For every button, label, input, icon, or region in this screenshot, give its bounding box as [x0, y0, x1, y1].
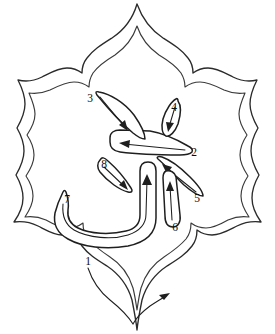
stroke-4-group: 4 [162, 99, 180, 137]
stroke-3-label: 3 [87, 92, 93, 104]
frame-group [14, 4, 261, 330]
stroke-8-label: 8 [101, 158, 107, 170]
stroke-6-label: 6 [172, 221, 178, 233]
stroke-2-group: 2 [110, 130, 197, 158]
stroke-2-label: 2 [191, 146, 197, 158]
stroke-4-label: 4 [171, 101, 177, 113]
stroke-5-label: 5 [194, 192, 200, 204]
stroke-1-label: 1 [85, 255, 91, 267]
stroke-8-group: 8 [98, 158, 132, 193]
stroke-order-figure: 1 2 3 4 5 [0, 0, 275, 334]
stroke-7-label: 7 [64, 193, 70, 205]
frame-outer-outline [14, 4, 261, 330]
stroke-6-group: 6 [163, 171, 180, 233]
diagram-canvas: 1 2 3 4 5 [0, 0, 275, 334]
